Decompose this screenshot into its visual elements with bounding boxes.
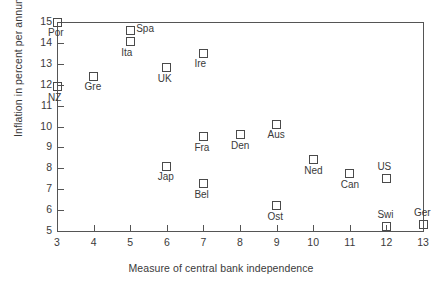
x-tick — [203, 225, 204, 231]
x-tick-label: 3 — [45, 236, 69, 248]
x-tick-label: 4 — [82, 236, 106, 248]
x-axis-title: Measure of central bank independence — [0, 262, 442, 274]
x-tick — [313, 225, 314, 231]
data-point-label: Gre — [85, 81, 102, 92]
data-point-label: Ita — [121, 47, 132, 58]
y-tick — [58, 168, 64, 169]
data-point-label: Jap — [158, 171, 174, 182]
data-point-marker — [199, 179, 208, 188]
x-axis-line — [57, 231, 424, 232]
data-point-label: Por — [48, 27, 64, 38]
data-point-marker — [272, 201, 281, 210]
x-tick-label: 9 — [265, 236, 289, 248]
data-point-marker — [419, 220, 428, 229]
data-point-label: Den — [231, 140, 249, 151]
x-tick — [350, 225, 351, 231]
data-point-label: Ost — [268, 211, 284, 222]
x-tick-label: 8 — [228, 236, 252, 248]
data-point-marker — [126, 37, 135, 46]
x-tick — [240, 225, 241, 231]
data-point-label: NZ — [48, 92, 61, 103]
data-point-label: Bel — [194, 189, 208, 200]
x-tick — [167, 225, 168, 231]
data-point-marker — [199, 132, 208, 141]
data-point-label: Fra — [194, 142, 209, 153]
x-tick-label: 5 — [118, 236, 142, 248]
data-point-label: Ger — [414, 207, 431, 218]
x-tick-label: 6 — [155, 236, 179, 248]
x-tick — [57, 225, 58, 231]
data-point-label: US — [377, 161, 391, 172]
y-tick — [58, 64, 64, 65]
data-point-marker — [199, 49, 208, 58]
y-tick-label: 15 — [26, 15, 52, 27]
data-point-marker — [53, 82, 62, 91]
y-tick-label: 6 — [26, 203, 52, 215]
data-point-marker — [126, 26, 135, 35]
y-tick — [58, 106, 64, 107]
x-tick-label: 7 — [191, 236, 215, 248]
x-tick-label: 13 — [411, 236, 435, 248]
data-point-marker — [236, 130, 245, 139]
data-point-label: Aus — [268, 129, 285, 140]
data-point-label: Can — [341, 179, 359, 190]
data-point-marker — [382, 222, 391, 231]
data-point-marker — [272, 120, 281, 129]
data-point-marker — [382, 174, 391, 183]
data-point-marker — [162, 63, 171, 72]
y-tick — [58, 231, 64, 232]
x-tick — [130, 225, 131, 231]
plot-frame-top — [57, 22, 424, 23]
y-tick — [58, 43, 64, 44]
x-tick — [94, 225, 95, 231]
y-tick-label: 12 — [26, 78, 52, 90]
data-point-label: Ned — [304, 165, 322, 176]
y-tick — [58, 210, 64, 211]
data-point-label: UK — [158, 73, 172, 84]
scatter-plot: Inflation in percent per annum Measure o… — [0, 0, 442, 287]
y-tick-label: 9 — [26, 140, 52, 152]
x-tick-label: 12 — [374, 236, 398, 248]
y-tick — [58, 189, 64, 190]
data-point-marker — [345, 169, 354, 178]
data-point-label: Spa — [136, 23, 154, 34]
y-tick — [58, 127, 64, 128]
plot-frame-right — [423, 22, 424, 231]
data-point-marker — [53, 18, 62, 27]
data-point-marker — [162, 162, 171, 171]
data-point-label: Ire — [194, 58, 206, 69]
y-axis-title: Inflation in percent per annum — [12, 0, 24, 156]
x-tick-label: 11 — [338, 236, 362, 248]
data-point-label: Swi — [377, 209, 393, 220]
y-tick-label: 8 — [26, 161, 52, 173]
y-tick — [58, 147, 64, 148]
y-tick-label: 7 — [26, 182, 52, 194]
y-tick-label: 10 — [26, 120, 52, 132]
x-tick-label: 10 — [301, 236, 325, 248]
y-tick-label: 5 — [26, 224, 52, 236]
data-point-marker — [309, 155, 318, 164]
x-tick — [277, 225, 278, 231]
y-tick-label: 13 — [26, 57, 52, 69]
data-point-marker — [89, 72, 98, 81]
